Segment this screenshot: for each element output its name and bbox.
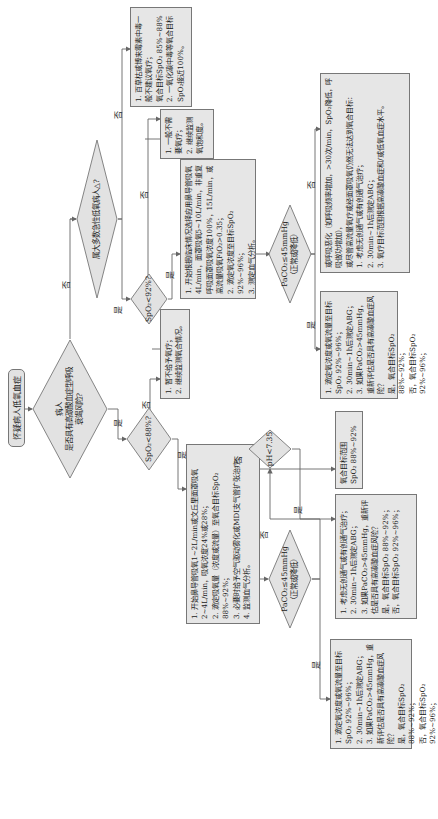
decision-co2-risk: 病人 是否具有高碳酸血症型呼吸 衰竭风险? xyxy=(32,339,108,479)
decision-text: （正常或降低） xyxy=(290,555,300,604)
box-text: 1. 暂不给予氧疗； xyxy=(164,314,174,394)
box-text: 3. 必要时给予空气驱动雾化或MDI支气管扩张治疗； xyxy=(232,449,242,619)
box-text: 是，氧合目标SpO₂ 88%~92%； xyxy=(387,296,408,394)
label-no: 否 xyxy=(140,401,151,409)
box-text: 2. 30min~1h后测定ABG； xyxy=(366,78,376,268)
box-low-flow-start: 1. 开始鼻导管吸氧1~2L/min或文丘里面罩吸氧2~4L/min，吸氧浓度2… xyxy=(186,444,260,624)
box-text: 氧合目标范围 xyxy=(339,416,349,484)
label-no: 否 xyxy=(60,281,71,289)
box-text: 2. 滴定吸氧量（浓度或流量）至氧合目标SpO₂ 88%~92%； xyxy=(211,449,232,619)
box-text: 1. 滴定氧浓度或氧流量至目标SpO₂ 92%~96%； xyxy=(324,296,345,394)
box-text: 或尽管高流量氧疗或经面罩吸氧仍然无法达到氧合目标： xyxy=(345,78,355,268)
box-text: 1. 考虑无创通气或有创通气治疗； xyxy=(339,499,349,614)
decision-acute-hypoxia: 属大多数急性低氧病人△? xyxy=(76,139,118,299)
decision-text: 是否具有高碳酸血症型呼吸 xyxy=(65,367,75,451)
box-text: 1. 百草枯或博来霉素中毒一般不建议氧疗； xyxy=(134,12,155,102)
box-right-paco2-no: 或呼吸恶化（如呼吸频率增加，>30次/min，SpO₂降低，呼吸做功增加）， 或… xyxy=(320,73,410,273)
decision-text: 病人 xyxy=(55,402,65,416)
decision-text: PaCO₂≤45mmHg xyxy=(280,221,290,286)
box-text: 1. 开始鼻导管吸氧1~2L/min或文丘里面罩吸氧2~4L/min，吸氧浓度2… xyxy=(190,449,211,619)
box-text: 2. 继续监测氧饱和度。 xyxy=(185,114,206,154)
box-text: 2. 30min~1h后测定ABG； xyxy=(345,296,355,394)
label-no: 否 xyxy=(258,531,269,539)
box-text: 2. 30min~1h后测定ABG； xyxy=(355,644,365,744)
box-text: 4. 监测血气分析。 xyxy=(242,449,252,619)
box-text: 2. 继续监测氧合情况。 xyxy=(174,314,184,394)
box-text: 2. 30min~1h后测定ABG； xyxy=(349,499,359,614)
label-no: 否 xyxy=(305,181,316,189)
box-text: 否，氧合目标SpO₂ 92%~96%； xyxy=(408,296,429,394)
decision-text: 属大多数急性低氧病人△? xyxy=(92,179,102,259)
box-left-paco2-yes: 1. 滴定氧浓度或氧流量至目标SpO₂ 92%~96%； 2. 30min~1h… xyxy=(330,639,412,749)
decision-paco2-left: PaCO₂≤45mmHg （正常或降低） xyxy=(268,529,312,629)
label-no: 否 xyxy=(112,111,123,119)
start-label: 怀疑病人低氧血症 xyxy=(13,376,22,440)
label-no: 否 xyxy=(232,456,243,464)
start-node: 怀疑病人低氧血症 xyxy=(8,369,25,447)
decision-text: SpO₂<92%? xyxy=(144,276,154,322)
box-text: 1. 开始根据临床情况选择应用鼻导管吸氧4L/min，面罩吸氧5~10L/min… xyxy=(184,164,226,294)
box-text: 或呼吸恶化（如呼吸频率增加，>30次/min，SpO₂降低，呼吸做功增加）， xyxy=(324,78,345,268)
box-text: 是，氧合目标SpO₂ 88%~92%； xyxy=(381,499,391,614)
box-right-paco2-yes: 1. 滴定氧浓度或氧流量至目标SpO₂ 92%~96%； 2. 30min~1h… xyxy=(320,291,398,399)
box-no-oxygen-needed: 1. 一般不需要氧疗； 2. 继续监测氧饱和度。 xyxy=(160,109,214,159)
box-co-poisoning: 1. 百草枯或博来霉素中毒一般不建议氧疗； 氧合目标SpO₂ 85%~88% 2… xyxy=(130,7,192,107)
box-text: SpO₂ 88%~92% xyxy=(349,416,359,484)
box-text: 1. 考虑无创通气或有创通气治疗； xyxy=(355,78,365,268)
decision-text: SpO₂<88%? xyxy=(144,416,154,462)
decision-spo2-88: SpO₂<88%? xyxy=(126,407,172,471)
label-yes: 是 xyxy=(310,661,321,669)
box-text: 氧合目标SpO₂ 85%~88% xyxy=(155,12,165,102)
box-text: 否，氧合目标SpO₂ 92%~96%； xyxy=(391,499,401,614)
box-text: 否，氧合目标SpO₂ 92%~96%； xyxy=(418,644,438,744)
label-yes: 是 xyxy=(112,419,123,427)
decision-text: 衰竭风险? xyxy=(75,393,85,425)
decision-text: PaCO₂≤45mmHg xyxy=(280,546,290,611)
label-yes: 是 xyxy=(305,321,316,329)
label-yes: 是 xyxy=(164,271,175,279)
label-yes: 是 xyxy=(112,306,123,314)
box-text: 1. 一般不需要氧疗； xyxy=(164,114,185,154)
box-text: 3. 如果PaCO₂>45mmHg，重新评估是否具有高碳酸血症风险？ xyxy=(355,296,386,394)
decision-paco2-right: PaCO₂≤45mmHg （正常或降低） xyxy=(268,204,312,304)
box-text: 2. 一氧化碳中毒等氧合目标SpO₂接近100%。 xyxy=(165,12,186,102)
decision-text: pH<7.35 xyxy=(265,432,275,466)
box-text: 是，氧合目标SpO₂ 88%~92%； xyxy=(397,644,418,744)
box-text: 1. 滴定氧浓度或氧流量至目标SpO₂ 92%~96%； xyxy=(334,644,355,744)
label-yes: 是 xyxy=(292,506,303,514)
box-ph-yes: 1. 考虑无创通气或有创通气治疗； 2. 30min~1h后测定ABG； 3. … xyxy=(335,494,417,619)
box-hold-oxygen: 1. 暂不给予氧疗； 2. 继续监测氧合情况。 xyxy=(160,309,190,399)
box-text: 3. 如果PaCO₂>45mmHg，重新评估是否具有高碳酸血症风险？ xyxy=(365,644,396,744)
box-text: 3. 测定血气分析。 xyxy=(247,164,257,294)
decision-text: （正常或降低） xyxy=(290,230,300,279)
box-ph-no: 氧合目标范围 SpO₂ 88%~92% xyxy=(335,411,363,489)
label-no: 否 xyxy=(138,191,149,199)
box-high-flow-start: 1. 开始根据临床情况选择应用鼻导管吸氧4L/min，面罩吸氧5~10L/min… xyxy=(180,159,256,299)
decision-ph: pH<7.35 xyxy=(248,429,292,469)
box-text: 3. 如果PaCO₂>45mmHg，重新评估是否具有高碳酸血症风险？ xyxy=(360,499,381,614)
box-text: 3. 氧疗目标范围根据高碳酸血症和/或低氧血症水平。 xyxy=(376,78,386,268)
box-text: 2. 滴定氧浓度至目标SpO₂ 92%~96%； xyxy=(226,164,247,294)
